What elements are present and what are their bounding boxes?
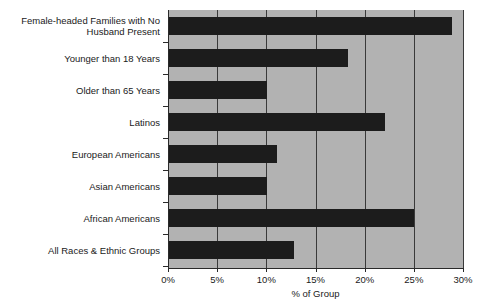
y-axis-tick <box>163 106 169 107</box>
x-axis-tick <box>316 268 317 272</box>
x-axis-tick <box>463 268 464 272</box>
x-axis-tick-label: 30% <box>443 274 479 285</box>
x-axis-tick-label: 20% <box>345 274 385 285</box>
x-axis-tick-label: 15% <box>296 274 336 285</box>
bar-row: Older than 65 Years <box>0 74 479 106</box>
category-label: Female-headed Families with No Husband P… <box>0 10 160 42</box>
category-label: Asian Americans <box>0 170 160 202</box>
y-axis-tick <box>163 202 169 203</box>
bar <box>169 81 267 99</box>
bar-row: Latinos <box>0 106 479 138</box>
bar <box>169 17 452 35</box>
y-axis-tick <box>163 234 169 235</box>
x-axis-tick <box>365 268 366 272</box>
category-label: Latinos <box>0 106 160 138</box>
cropped-title-remnant <box>18 0 168 4</box>
x-axis-tick <box>266 268 267 272</box>
y-axis-tick <box>163 74 169 75</box>
bar-row: All Races & Ethnic Groups <box>0 234 479 266</box>
bar-row: Younger than 18 Years <box>0 42 479 74</box>
y-axis-tick <box>163 170 169 171</box>
bar-row: European Americans <box>0 138 479 170</box>
bar <box>169 145 277 163</box>
x-axis-tick <box>168 268 169 272</box>
x-axis-tick-label: 25% <box>394 274 434 285</box>
bar-row: Asian Americans <box>0 170 479 202</box>
category-label: All Races & Ethnic Groups <box>0 234 160 266</box>
category-label: African Americans <box>0 202 160 234</box>
x-axis-tick-label: 10% <box>246 274 286 285</box>
poverty-rate-bar-chart: Female-headed Families with No Husband P… <box>0 0 479 303</box>
x-axis-tick-label: 0% <box>148 274 188 285</box>
x-axis-tick <box>217 268 218 272</box>
x-axis-tick <box>414 268 415 272</box>
category-label: Younger than 18 Years <box>0 42 160 74</box>
bar <box>169 177 267 195</box>
y-axis-tick <box>163 266 169 267</box>
bar <box>169 49 348 67</box>
bar <box>169 113 385 131</box>
bar-row: Female-headed Families with No Husband P… <box>0 10 479 42</box>
x-axis-title: % of Group <box>168 288 463 299</box>
category-label: European Americans <box>0 138 160 170</box>
category-label: Older than 65 Years <box>0 74 160 106</box>
y-axis-tick <box>163 138 169 139</box>
bar <box>169 241 294 259</box>
x-axis-tick-label: 5% <box>197 274 237 285</box>
bar <box>169 209 414 227</box>
bar-row: African Americans <box>0 202 479 234</box>
y-axis-tick <box>163 42 169 43</box>
